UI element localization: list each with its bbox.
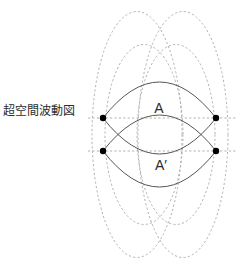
axis-line-group [88, 118, 236, 151]
hyperspace-wave-diagram: A A′ [0, 0, 240, 269]
label-lower-A-prime: A′ [155, 157, 167, 173]
node-lower-left [100, 148, 106, 154]
figure-canvas: 超空間波動図 A [0, 0, 240, 269]
dashed-circle-left-inner [105, 45, 183, 225]
lens-lower-top-arc [103, 115, 216, 151]
dashed-circle-group [92, 12, 228, 258]
label-upper-A: A [154, 100, 164, 116]
node-lower-right [213, 148, 219, 154]
dashed-circle-left [92, 12, 182, 258]
lens-upper-bottom-arc [103, 118, 216, 154]
node-upper-left [100, 115, 106, 121]
node-upper-right [213, 115, 219, 121]
